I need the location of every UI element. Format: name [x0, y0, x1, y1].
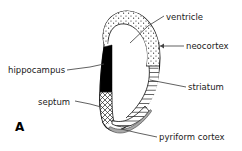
label-hippocampus: hippocampus: [8, 66, 65, 75]
label-neocortex: neocortex: [186, 42, 229, 51]
hippocampus-region: [100, 45, 112, 92]
anatomical-figure-panel: ventricle neocortex striatum pyriform co…: [0, 0, 242, 151]
leader-line-hippocampus: [67, 64, 104, 70]
label-striatum: striatum: [188, 83, 224, 92]
neocortex-arrowhead: [160, 43, 164, 48]
diagram-artwork: [67, 5, 186, 137]
label-septum: septum: [38, 98, 70, 107]
leader-line-pyriform: [121, 129, 157, 137]
panel-letter: A: [15, 121, 24, 133]
label-ventricle: ventricle: [166, 13, 203, 22]
brain-cross-section-diagram: [0, 0, 242, 151]
label-pyriform-cortex: pyriform cortex: [159, 133, 225, 142]
leader-line-septum: [75, 101, 101, 107]
